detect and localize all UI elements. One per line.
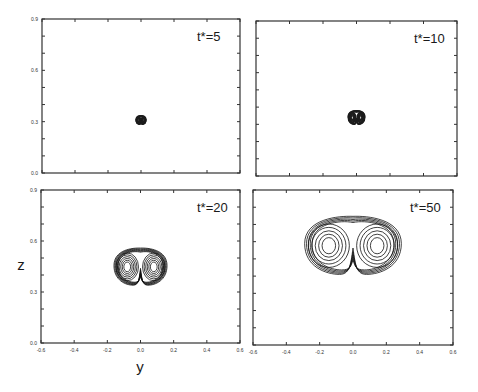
panel-time-label: t*=20	[197, 200, 228, 215]
y-axis-title-text: z	[17, 256, 25, 273]
core-contour	[315, 231, 342, 261]
panel-2: t*=10	[256, 21, 457, 176]
y-tick-label: 0.9	[30, 187, 37, 193]
core-contour	[364, 231, 391, 261]
x-tick-label: -0.6	[249, 349, 258, 355]
y-tick-label: 0.0	[30, 340, 37, 346]
vortex-contours	[305, 216, 402, 274]
panel-time-label: t*=50	[410, 200, 441, 215]
x-tick-label: -0.6	[37, 347, 46, 353]
core-contour	[142, 119, 144, 121]
y-tick-label: 0.6	[30, 238, 37, 244]
panel-4: -0.6-0.4-0.20.00.20.40.6t*=50	[249, 190, 457, 355]
panel-time-label: t*=10	[414, 31, 445, 46]
x-tick-label: -0.2	[103, 347, 112, 353]
core-contour	[312, 227, 346, 264]
core-contour	[138, 119, 140, 121]
core-contour	[119, 257, 135, 277]
x-tick-label: -0.2	[315, 349, 324, 355]
y-tick-label: 0.3	[30, 289, 37, 295]
contour-line	[312, 222, 394, 270]
x-tick-label: -0.4	[70, 347, 79, 353]
x-tick-label: 0.0	[137, 347, 144, 353]
core-contour	[370, 238, 384, 254]
x-tick-label: 0.2	[383, 349, 390, 355]
core-contour	[351, 116, 353, 120]
y-tick-label: 0.6	[31, 67, 38, 73]
y-tick-label: 0.0	[31, 170, 38, 176]
core-contour	[322, 238, 336, 254]
core-contour	[360, 227, 394, 264]
contour-line	[118, 252, 163, 283]
y-tick-label: 0.9	[31, 16, 38, 22]
x-tick-label: 0.4	[203, 347, 210, 353]
core-contour	[360, 116, 362, 120]
figure-canvas: 0.00.30.60.9t*=5t*=10-0.6-0.4-0.20.00.20…	[0, 0, 478, 392]
core-contour	[124, 262, 131, 272]
x-tick-label: 0.2	[170, 347, 177, 353]
vortex-contours	[348, 111, 365, 125]
core-contour	[146, 257, 162, 277]
panel-1: 0.00.30.60.9t*=5	[31, 16, 240, 176]
panel-time-label: t*=5	[197, 29, 221, 44]
x-tick-label: 0.0	[350, 349, 357, 355]
vortex-contours	[114, 248, 167, 285]
x-tick-label: 0.6	[450, 349, 457, 355]
core-contour	[150, 262, 157, 272]
x-tick-label: 0.4	[416, 349, 423, 355]
x-tick-label: 0.6	[237, 347, 244, 353]
x-axis-title-text: y	[136, 358, 144, 375]
vortex-contours	[136, 116, 146, 124]
x-tick-label: -0.4	[282, 349, 291, 355]
panel-3: -0.6-0.4-0.20.00.20.40.60.00.30.60.9t*=2…	[30, 187, 244, 353]
y-tick-label: 0.3	[31, 119, 38, 125]
